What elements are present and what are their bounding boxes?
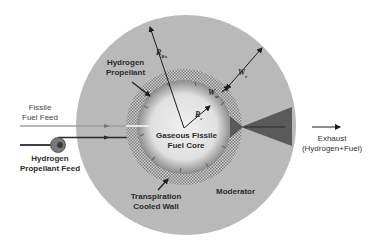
fissile-fuel-feed-label: Fissile Fuel Feed xyxy=(22,103,58,123)
reactor-diagram xyxy=(0,0,377,250)
wall-thickness-symbol: Ww xyxy=(208,88,218,99)
hydrogen-propellant-label-line1: Hydrogen xyxy=(106,58,145,68)
moderator-thickness-sub: r xyxy=(245,74,247,79)
gaseous-fissile-fuel-core-label: Gaseous Fissile Fuel Core xyxy=(156,131,216,151)
reflector-radius-symbol: RRx xyxy=(156,48,167,59)
pump-hub-icon xyxy=(57,142,63,148)
core-radius-symbol: Rc xyxy=(195,110,203,121)
cooled-wall-label-line2: Cooled Wall xyxy=(126,202,186,212)
core-radius-sub: c xyxy=(200,116,202,121)
hydrogen-propellant-label: Hydrogen Propellant xyxy=(106,58,145,78)
hydrogen-propellant-feed-label-line2: Propellant Feed xyxy=(20,164,80,174)
moderator-thickness-symbol: Wr xyxy=(238,68,247,79)
cooled-wall-label-line1: Transpiration xyxy=(126,192,186,202)
fissile-fuel-feed-label-line1: Fissile xyxy=(22,103,58,113)
core-label-line2: Fuel Core xyxy=(156,141,216,151)
exhaust-label-line1: Exhaust xyxy=(292,134,372,144)
fissile-fuel-feed-label-line2: Fuel Feed xyxy=(22,113,58,123)
reflector-radius-sub: Rx xyxy=(161,54,167,59)
transpiration-cooled-wall-label: Transpiration Cooled Wall xyxy=(126,192,186,212)
core-label-line1: Gaseous Fissile xyxy=(156,131,216,141)
exhaust-label: Exhaust (Hydrogen+Fuel) xyxy=(292,134,372,154)
hydrogen-propellant-feed-label: Hydrogen Propellant Feed xyxy=(20,154,80,174)
exhaust-label-line2: (Hydrogen+Fuel) xyxy=(292,144,372,154)
hydrogen-propellant-feed-label-line1: Hydrogen xyxy=(20,154,80,164)
wall-thickness-sub: w xyxy=(215,94,218,99)
hydrogen-propellant-label-line2: Propellant xyxy=(106,68,145,78)
moderator-label: Moderator xyxy=(216,187,255,197)
